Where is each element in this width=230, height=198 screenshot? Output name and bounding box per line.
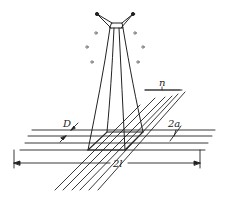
- mast-head: [95, 12, 134, 28]
- field-points: [86, 32, 144, 63]
- label-2a: 2a: [167, 118, 180, 129]
- diagram: n D 2a 2l: [0, 0, 230, 198]
- label-2l: 2l: [112, 158, 123, 169]
- label-n: n: [159, 77, 165, 88]
- label-d: D: [62, 118, 71, 129]
- horizontal-wires: [20, 130, 215, 150]
- 2l-dimension: [14, 150, 200, 168]
- diagonal-wires: [55, 90, 185, 190]
